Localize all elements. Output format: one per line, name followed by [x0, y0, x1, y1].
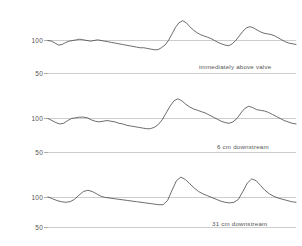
y-axis-title-container: PRESSURE (mm Hg): [9, 0, 23, 246]
panel-1-trace-group: [48, 21, 296, 50]
panel-3-trace-group: [48, 177, 296, 205]
panel-1-ytick-100: 100: [27, 37, 43, 44]
panel-1-caption: immediately above valve: [199, 63, 271, 70]
panel-3-ytick-100: 100: [27, 194, 43, 201]
panel-1-ytick-50: 50: [27, 70, 43, 77]
pressure-trace-6cm: [48, 99, 296, 129]
panel-2-caption: 6 cm downstream: [217, 143, 269, 150]
panel-2-ytick-50: 50: [27, 149, 43, 156]
pressure-waveform-figure: PRESSURE (mm Hg) 100 50 100 50 100 50 im…: [0, 0, 302, 246]
plot-canvas: [0, 0, 302, 246]
panel-3-caption: 31 cm downstream: [212, 220, 267, 227]
pressure-trace-31cm: [48, 177, 296, 205]
panel-2-trace-group: [48, 99, 296, 129]
pressure-trace-above-valve: [48, 21, 296, 50]
panel-2-ytick-100: 100: [27, 115, 43, 122]
panel-3-ytick-50: 50: [27, 224, 43, 231]
